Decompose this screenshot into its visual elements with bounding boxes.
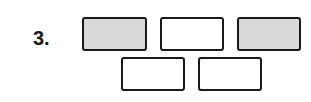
problem-number: 3. [33, 28, 50, 48]
box-row1-3 [237, 17, 301, 51]
box-row1-1 [82, 17, 147, 51]
box-row1-2 [160, 17, 224, 51]
box-row2-1 [121, 57, 185, 91]
box-row2-2 [198, 57, 262, 91]
